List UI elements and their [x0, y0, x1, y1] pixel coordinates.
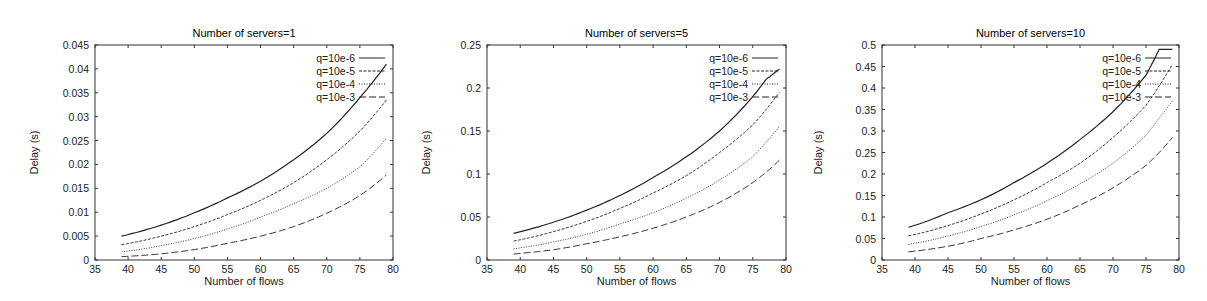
x-tick-label: 35 [876, 263, 888, 275]
y-tick-label: 0.035 [63, 87, 89, 99]
y-tick-label: 0.1 [466, 168, 481, 180]
chart-servers-10: Number of servers=1035404550556065707580… [800, 0, 1207, 301]
y-tick-label: 0.045 [63, 39, 89, 51]
x-tick-label: 65 [288, 263, 300, 275]
x-tick-label: 40 [122, 263, 134, 275]
chart-svg: Number of servers=1354045505560657075800… [0, 0, 400, 301]
x-tick-label: 70 [321, 263, 333, 275]
series-line [122, 100, 387, 245]
y-tick-label: 0.05 [461, 211, 482, 223]
chart-servers-5: Number of servers=5354045505560657075800… [400, 0, 800, 301]
y-axis-label: Delay (s) [420, 130, 432, 174]
legend-label: q=10e-5 [709, 65, 748, 77]
legend-label: q=10e-6 [316, 52, 355, 64]
legend-label: q=10e-4 [1102, 78, 1141, 90]
y-tick-label: 0.25 [461, 39, 482, 51]
legend-label: q=10e-5 [316, 65, 355, 77]
chart-servers-1: Number of servers=1354045505560657075800… [0, 0, 400, 301]
chart-title: Number of servers=5 [585, 27, 688, 39]
x-tick-label: 60 [647, 263, 659, 275]
x-tick-label: 80 [1173, 263, 1185, 275]
series-line [514, 160, 780, 254]
legend-label: q=10e-3 [709, 91, 748, 103]
x-tick-label: 55 [222, 263, 234, 275]
x-tick-label: 80 [387, 263, 399, 275]
chart-svg: Number of servers=5354045505560657075800… [400, 0, 800, 301]
legend-label: q=10e-4 [709, 78, 748, 90]
y-tick-label: 0.25 [856, 147, 877, 159]
y-tick-label: 0.35 [856, 104, 877, 116]
y-tick-label: 0 [870, 254, 876, 266]
x-axis-label: Number of flows [991, 275, 1071, 287]
y-tick-label: 0.01 [69, 206, 90, 218]
y-tick-label: 0.15 [856, 190, 877, 202]
x-tick-label: 60 [1041, 263, 1053, 275]
y-tick-label: 0.3 [861, 125, 876, 137]
y-axis-label: Delay (s) [812, 130, 824, 174]
legend-label: q=10e-5 [1102, 65, 1141, 77]
x-tick-label: 45 [548, 263, 560, 275]
y-tick-label: 0.015 [63, 182, 89, 194]
chart-title: Number of servers=1 [192, 27, 295, 39]
x-tick-label: 60 [255, 263, 267, 275]
y-tick-label: 0.5 [861, 39, 876, 51]
x-tick-label: 55 [614, 263, 626, 275]
y-tick-label: 0.4 [861, 82, 876, 94]
y-tick-label: 0.005 [63, 230, 89, 242]
x-axis-label: Number of flows [204, 275, 284, 287]
series-line [908, 101, 1172, 245]
y-tick-label: 0.05 [856, 233, 877, 245]
chart-svg: Number of servers=1035404550556065707580… [800, 0, 1207, 301]
x-tick-label: 35 [481, 263, 493, 275]
x-tick-label: 50 [975, 263, 987, 275]
legend-label: q=10e-6 [1102, 52, 1141, 64]
x-tick-label: 50 [581, 263, 593, 275]
x-tick-label: 75 [747, 263, 759, 275]
y-axis-label: Delay (s) [28, 130, 40, 174]
y-tick-label: 0 [475, 254, 481, 266]
x-tick-label: 65 [1074, 263, 1086, 275]
legend-label: q=10e-6 [709, 52, 748, 64]
x-tick-label: 70 [1107, 263, 1119, 275]
x-tick-label: 70 [714, 263, 726, 275]
x-axis-label: Number of flows [597, 275, 677, 287]
legend-label: q=10e-3 [1102, 91, 1141, 103]
x-tick-label: 65 [680, 263, 692, 275]
chart-title: Number of servers=10 [976, 27, 1085, 39]
y-tick-label: 0.02 [69, 158, 90, 170]
x-tick-label: 75 [1140, 263, 1152, 275]
y-tick-label: 0.03 [69, 111, 90, 123]
y-tick-label: 0.1 [861, 211, 876, 223]
x-tick-label: 45 [155, 263, 167, 275]
legend-label: q=10e-4 [316, 78, 355, 90]
legend-label: q=10e-3 [316, 91, 355, 103]
x-tick-label: 50 [188, 263, 200, 275]
x-tick-label: 75 [354, 263, 366, 275]
x-tick-label: 35 [89, 263, 101, 275]
y-tick-label: 0.04 [69, 63, 90, 75]
y-tick-label: 0.15 [461, 125, 482, 137]
y-tick-label: 0.025 [63, 135, 89, 147]
y-tick-label: 0.2 [466, 82, 481, 94]
y-tick-label: 0 [83, 254, 89, 266]
series-line [908, 138, 1172, 252]
y-tick-label: 0.45 [856, 61, 877, 73]
x-tick-label: 40 [909, 263, 921, 275]
series-line [122, 175, 387, 257]
x-tick-label: 40 [514, 263, 526, 275]
x-tick-label: 45 [942, 263, 954, 275]
x-tick-label: 80 [780, 263, 792, 275]
y-tick-label: 0.2 [861, 168, 876, 180]
x-tick-label: 55 [1008, 263, 1020, 275]
series-line [122, 138, 387, 252]
